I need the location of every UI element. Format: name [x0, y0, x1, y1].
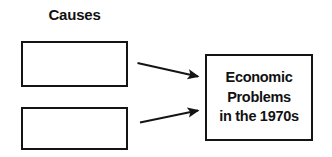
- arrow-cause-2-to-effect: [140, 111, 198, 123]
- arrow-cause-1-to-effect: [138, 63, 199, 77]
- cause-box-1[interactable]: [21, 41, 128, 87]
- cause-box-2[interactable]: [21, 107, 128, 150]
- causes-column-heading: Causes: [21, 5, 128, 24]
- effect-box: Economic Problems in the 1970s: [205, 54, 313, 141]
- effect-box-line-2: Problems: [219, 88, 298, 108]
- effect-box-text: Economic Problems in the 1970s: [219, 68, 298, 127]
- effect-box-line-3: in the 1970s: [219, 107, 298, 127]
- diagram-canvas: Causes Economic Problems in the 1970s: [0, 0, 332, 157]
- effect-box-line-1: Economic: [219, 68, 298, 88]
